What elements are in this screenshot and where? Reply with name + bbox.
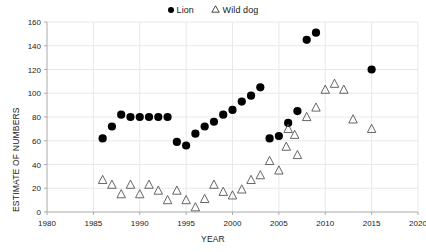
data-point-lion: [293, 107, 301, 115]
data-point-lion: [368, 65, 376, 73]
x-tick-label: 1995: [177, 219, 195, 228]
y-tick-label: 0: [37, 208, 42, 217]
data-point-wild-dog: [256, 171, 264, 179]
data-point-lion: [136, 113, 144, 121]
data-point-wild-dog: [340, 85, 348, 93]
data-point-wild-dog: [200, 194, 208, 202]
data-point-wild-dog: [282, 142, 290, 150]
x-tick-label: 1990: [131, 219, 149, 228]
data-point-lion: [108, 122, 116, 130]
x-tick-label: 1985: [84, 219, 102, 228]
data-point-lion: [256, 83, 264, 91]
y-tick-label: 120: [28, 66, 42, 75]
y-tick-label: 80: [32, 113, 41, 122]
y-tick-label: 160: [28, 18, 42, 27]
data-point-lion: [228, 106, 236, 114]
data-point-wild-dog: [330, 79, 338, 87]
data-point-wild-dog: [210, 180, 218, 188]
data-point-wild-dog: [145, 180, 153, 188]
x-tick-label: 2020: [409, 219, 426, 228]
data-point-wild-dog: [265, 156, 273, 164]
plot-area: 0204060801001201401601980198519901995200…: [0, 0, 426, 252]
x-tick-label: 2000: [224, 219, 242, 228]
x-tick-label: 2005: [270, 219, 288, 228]
y-axis-label: ESTIMATE OF NUMBERS: [11, 107, 21, 212]
data-point-lion: [191, 130, 199, 138]
data-point-lion: [126, 113, 134, 121]
data-point-lion: [182, 141, 190, 149]
data-point-lion: [145, 113, 153, 121]
data-point-lion: [210, 118, 218, 126]
y-tick-label: 140: [28, 42, 42, 51]
y-tick-label: 40: [32, 161, 41, 170]
x-axis-label: YEAR: [0, 234, 426, 244]
data-point-lion: [247, 92, 255, 100]
data-point-wild-dog: [247, 175, 255, 183]
data-point-wild-dog: [126, 180, 134, 188]
data-point-lion: [275, 132, 283, 140]
data-point-lion: [219, 111, 227, 119]
data-point-lion: [312, 29, 320, 37]
data-point-lion: [163, 113, 171, 121]
data-point-wild-dog: [173, 186, 181, 194]
data-point-lion: [154, 113, 162, 121]
data-point-lion: [117, 111, 125, 119]
data-point-wild-dog: [98, 175, 106, 183]
data-point-wild-dog: [349, 115, 357, 123]
data-point-wild-dog: [312, 103, 320, 111]
data-point-wild-dog: [117, 190, 125, 198]
data-point-wild-dog: [108, 180, 116, 188]
data-point-wild-dog: [163, 196, 171, 204]
data-point-wild-dog: [302, 112, 310, 120]
data-point-wild-dog: [191, 203, 199, 211]
x-tick-label: 2015: [363, 219, 381, 228]
x-tick-label: 1980: [38, 219, 56, 228]
y-tick-label: 20: [32, 184, 41, 193]
data-point-wild-dog: [238, 185, 246, 193]
y-tick-label: 100: [28, 89, 42, 98]
data-point-lion: [99, 134, 107, 142]
data-point-lion: [238, 97, 246, 105]
data-point-lion: [303, 36, 311, 44]
data-point-lion: [266, 134, 274, 142]
x-tick-label: 2010: [316, 219, 334, 228]
data-point-lion: [173, 138, 181, 146]
data-point-lion: [201, 122, 209, 130]
data-point-wild-dog: [154, 186, 162, 194]
y-tick-label: 60: [32, 137, 41, 146]
data-point-lion: [284, 119, 292, 127]
scatter-chart: Lion Wild dog 02040608010012014016019801…: [0, 0, 426, 252]
data-point-wild-dog: [293, 150, 301, 158]
